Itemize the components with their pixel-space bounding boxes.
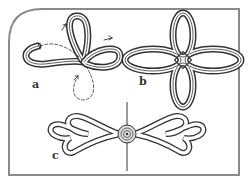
arrow-icon <box>62 24 66 30</box>
panel-label-c: c <box>52 149 59 162</box>
panel-b-knot <box>125 13 241 107</box>
dashed-path-bottom <box>74 66 94 100</box>
panel-c-closure <box>51 102 204 171</box>
button-icon <box>118 125 136 143</box>
arrow-icon <box>104 36 112 40</box>
panel-label-a: a <box>32 78 39 91</box>
frame-border <box>9 9 239 175</box>
panel-label-b: b <box>139 75 147 88</box>
arrow-icon <box>74 76 78 80</box>
panel-a-knot <box>26 16 120 100</box>
